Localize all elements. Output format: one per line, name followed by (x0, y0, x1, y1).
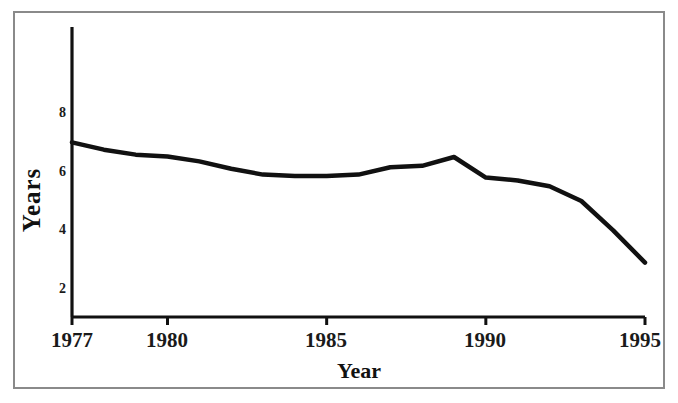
chart-page: 8 6 4 2 1977 1980 1985 1990 1995 Years Y… (0, 0, 678, 403)
y-tick-label-8: 8 (59, 105, 66, 121)
x-tick-label-1985: 1985 (305, 328, 347, 353)
x-tick-label-1977: 1977 (51, 328, 93, 353)
x-tick-label-1990: 1990 (464, 328, 506, 353)
y-tick-label-4: 4 (59, 222, 66, 238)
data-series-line (72, 142, 645, 262)
plot-area: 8 6 4 2 1977 1980 1985 1990 1995 Years Y… (0, 0, 678, 403)
y-tick-label-2: 2 (59, 281, 66, 297)
x-tick-label-1980: 1980 (146, 328, 188, 353)
x-tick-label-1995: 1995 (619, 328, 661, 353)
x-axis-title: Year (337, 358, 381, 384)
y-tick-label-6: 6 (59, 164, 66, 180)
y-axis-title: Years (18, 168, 46, 233)
